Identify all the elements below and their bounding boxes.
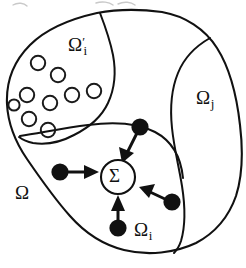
label-omega-glyph: Ω bbox=[68, 34, 82, 55]
arrow-head-icon bbox=[139, 184, 155, 198]
inclusion-circle bbox=[8, 99, 19, 110]
label-omega-i: Ωi bbox=[134, 220, 152, 242]
label-subscript-glyph: j bbox=[210, 96, 214, 111]
label-subscript-glyph: i bbox=[148, 228, 152, 243]
arrow-from-right-source bbox=[139, 184, 181, 211]
label-subscript-glyph: i bbox=[83, 43, 87, 58]
arrow-from-top-source bbox=[119, 118, 149, 163]
source-dot bbox=[51, 163, 68, 180]
source-dot bbox=[109, 219, 126, 236]
inclusion-circle bbox=[20, 88, 34, 102]
label-omega: Ω bbox=[15, 183, 29, 202]
figure-canvas bbox=[0, 0, 246, 268]
inclusion-circle bbox=[87, 84, 101, 98]
scan-smudge-group bbox=[13, 2, 135, 6]
arrow-head-icon bbox=[111, 195, 125, 211]
arrow-shaft bbox=[150, 192, 165, 199]
source-dot bbox=[163, 193, 180, 210]
inclusion-circle bbox=[51, 68, 65, 82]
label-omega-prime-i: Ω′i bbox=[68, 35, 87, 57]
inclusion-circle bbox=[22, 112, 36, 126]
inclusion-circle bbox=[65, 88, 79, 102]
arrow-from-bottom-source bbox=[109, 195, 126, 237]
arrow-from-left-source bbox=[51, 163, 99, 180]
scan-smudge-icon bbox=[96, 2, 113, 5]
label-omega-glyph: Ω bbox=[15, 182, 29, 203]
inclusion-circle bbox=[31, 56, 45, 70]
label-omega-j: Ωj bbox=[196, 88, 214, 110]
arrow-head-icon bbox=[84, 165, 99, 179]
label-omega-glyph: Ω bbox=[196, 87, 210, 108]
inclusion-circle bbox=[43, 96, 57, 110]
domain-decomposition-figure: Σ Ω′i Ωj Ω Ωi bbox=[0, 0, 246, 268]
summation-node-label: Σ bbox=[109, 166, 120, 185]
source-dot bbox=[131, 118, 148, 135]
scan-smudge-icon bbox=[118, 2, 135, 5]
neighbour-subregion-divider bbox=[171, 38, 210, 253]
label-omega-glyph: Ω bbox=[134, 219, 148, 240]
scan-smudge-icon bbox=[13, 3, 27, 6]
